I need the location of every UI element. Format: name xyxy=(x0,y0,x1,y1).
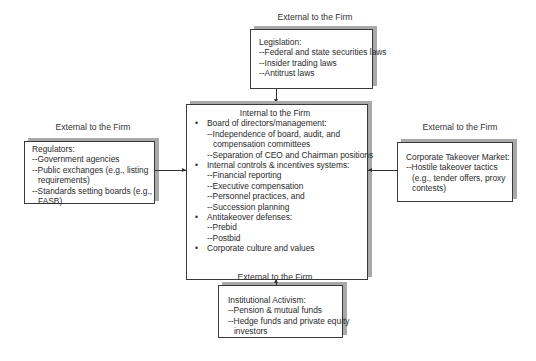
regulators-box: Regulators: --Government agencies --Publ… xyxy=(24,141,155,204)
takeover-line: (e.g., tender offers, proxy xyxy=(406,173,512,183)
legislation-title: Legislation: xyxy=(259,37,372,47)
section-title: Antitakeover defenses: xyxy=(207,212,363,222)
section-line: compensation committees xyxy=(207,139,363,149)
arrow-up-icon xyxy=(274,279,278,283)
takeover-line: --Hostile takeover tactics xyxy=(406,162,512,172)
bullet-icon: • xyxy=(195,118,198,128)
section-line: --Independence of board, audit, and xyxy=(207,129,363,139)
arrow-down-icon xyxy=(274,99,278,103)
section-line: --Personnel practices, and xyxy=(207,191,363,201)
legislation-item: --Federal and state securities laws xyxy=(259,47,372,57)
regulators-line: FASB) xyxy=(32,196,154,206)
connector-right xyxy=(368,170,397,171)
takeover-market-box: Corporate Takeover Market: --Hostile tak… xyxy=(397,142,513,202)
section-title: Corporate culture and values xyxy=(207,243,363,253)
regulators-title: Regulators: xyxy=(32,144,154,154)
section-culture: • Corporate culture and values xyxy=(193,243,363,253)
bullet-icon: • xyxy=(195,212,198,222)
section-title: Internal controls & incentives systems: xyxy=(207,160,363,170)
activism-title: Institutional Activism: xyxy=(228,295,342,305)
section-internal-controls: • Internal controls & incentives systems… xyxy=(193,160,363,212)
section-board: • Board of directors/management: --Indep… xyxy=(193,118,363,160)
section-line: --Financial reporting xyxy=(207,170,363,180)
internal-firm-box: Internal to the Firm • Board of director… xyxy=(186,104,368,280)
bullet-icon: • xyxy=(195,160,198,170)
top-external-header: External to the Firm xyxy=(250,12,380,22)
legislation-box: Legislation: --Federal and state securit… xyxy=(250,29,373,89)
regulators-line: requirements) xyxy=(32,175,154,185)
right-external-header: External to the Firm xyxy=(405,122,515,132)
regulators-line: --Public exchanges (e.g., listing xyxy=(32,165,154,175)
legislation-item: --Insider trading laws xyxy=(259,58,372,68)
section-line: --Executive compensation xyxy=(207,181,363,191)
internal-header: Internal to the Firm xyxy=(193,108,363,118)
regulators-line: --Standards setting boards (e.g., xyxy=(32,186,154,196)
activism-line: investors xyxy=(228,326,342,336)
section-line: --Succession planning xyxy=(207,202,363,212)
legislation-item: --Antitrust laws xyxy=(259,68,372,78)
takeover-title: Corporate Takeover Market: xyxy=(406,152,512,162)
arrow-right-icon xyxy=(182,168,186,172)
activism-line: --Pension & mutual funds xyxy=(228,305,342,315)
section-antitakeover: • Antitakeover defenses: --Prebid --Post… xyxy=(193,212,363,243)
regulators-line: --Government agencies xyxy=(32,154,154,164)
section-line: --Separation of CEO and Chairman positio… xyxy=(207,150,363,160)
institutional-activism-box: Institutional Activism: --Pension & mutu… xyxy=(218,285,343,338)
section-line: --Postbid xyxy=(207,233,363,243)
section-line: --Prebid xyxy=(207,222,363,232)
section-title: Board of directors/management: xyxy=(207,118,363,128)
arrow-left-icon xyxy=(368,168,372,172)
takeover-line: contests) xyxy=(406,183,512,193)
activism-line: --Hedge funds and private equity xyxy=(228,316,342,326)
bullet-icon: • xyxy=(195,243,198,253)
left-external-header: External to the Firm xyxy=(38,122,148,132)
